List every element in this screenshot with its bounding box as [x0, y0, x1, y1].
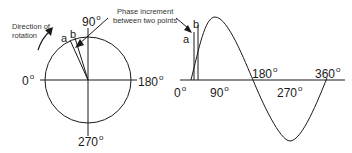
sine-label-180: 180o — [252, 66, 277, 80]
circle-point-b: b — [70, 29, 76, 40]
rotation-direction-label: Direction of rotation — [12, 23, 50, 40]
phasor-circle — [40, 28, 137, 136]
sine-label-0: 0o — [174, 85, 186, 99]
circle-label-180: 180o — [138, 74, 163, 88]
sine-point-a: a — [183, 34, 189, 45]
circle-label-0: 0o — [22, 73, 34, 87]
sine-point-b: b — [193, 19, 199, 30]
circle-label-270: 270o — [78, 134, 103, 148]
circle-label-90: 90o — [82, 14, 101, 28]
sine-label-90: 90o — [210, 85, 229, 99]
circle-point-a: a — [61, 33, 67, 44]
sine-label-360: 360o — [315, 66, 340, 80]
sine-label-270: 270o — [277, 85, 302, 99]
phase-increment-arrow-sine — [176, 18, 192, 33]
phase-increment-label: Phase increment between two points — [113, 8, 177, 25]
